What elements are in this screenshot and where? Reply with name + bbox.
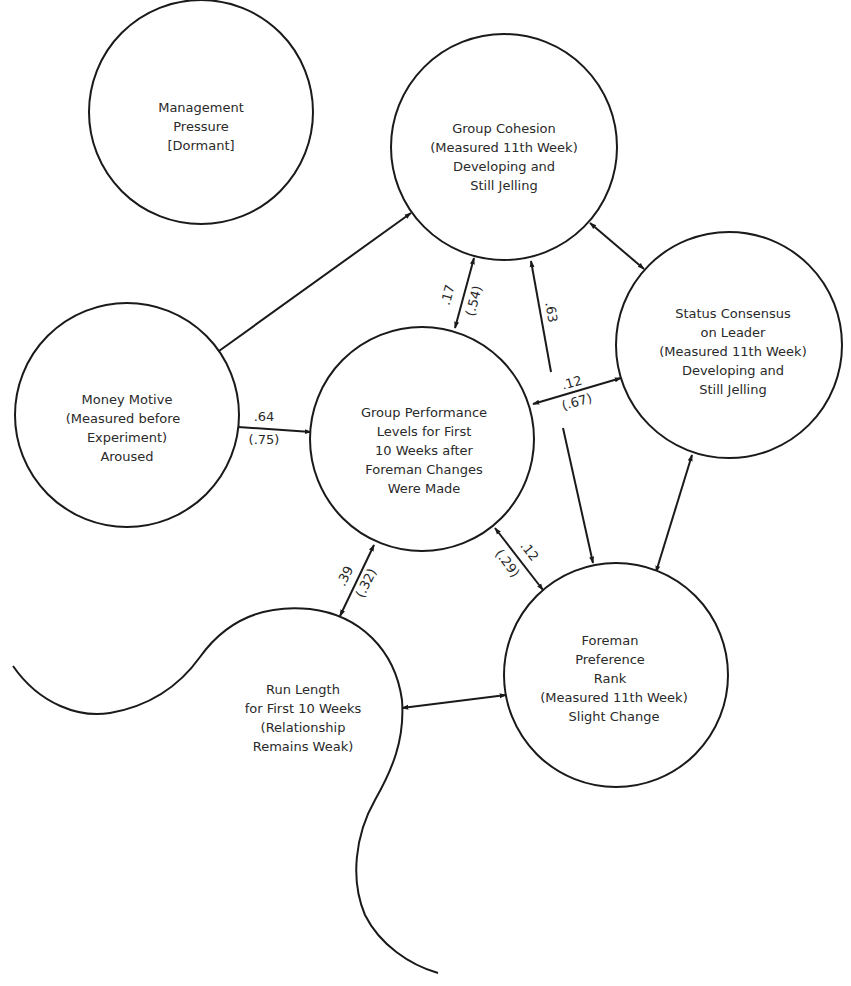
arrow-icon xyxy=(219,213,411,351)
node-label-line: Pressure xyxy=(173,119,229,134)
double-arrow-icon xyxy=(402,695,506,708)
circle-shape xyxy=(310,327,534,551)
node-foreman-preference: Foreman Preference Rank (Measured 11th W… xyxy=(504,563,728,787)
node-label-line: Developing and xyxy=(682,363,784,378)
path-diagram: .64 (.75) .17 (.54) .63 .12 (.67) .12 (.… xyxy=(0,0,851,986)
node-label-line: Developing and xyxy=(453,159,555,174)
double-arrow-icon xyxy=(656,455,692,572)
node-label-line: Aroused xyxy=(100,449,153,464)
node-label-line: Status Consensus xyxy=(675,306,791,321)
node-label-line: Experiment) xyxy=(87,430,167,445)
node-management-pressure: Management Pressure [Dormant] xyxy=(89,0,313,224)
node-label-line: Were Made xyxy=(388,481,461,496)
node-label-line: (Measured 11th Week) xyxy=(659,344,806,359)
coefficient-paren-label: (.75) xyxy=(249,432,280,447)
node-money-motive: Money Motive (Measured before Experiment… xyxy=(15,303,239,527)
node-label-line: Management xyxy=(158,100,244,115)
node-run-length: Run Length for First 10 Weeks (Relations… xyxy=(13,608,438,973)
double-arrow-icon xyxy=(590,223,644,269)
coefficient-label: .63 xyxy=(542,301,560,324)
node-label-line: Run Length xyxy=(266,682,340,697)
coefficient-label: .17 xyxy=(438,283,458,307)
edge-foreman-to-cohesion: .63 xyxy=(531,261,593,563)
edge-performance-foreman: .12 (.29) xyxy=(492,528,543,590)
node-label-line: Slight Change xyxy=(569,709,660,724)
node-label-line: Group Performance xyxy=(361,405,487,420)
edge-runlength-foreman xyxy=(402,695,506,708)
node-label-line: Still Jelling xyxy=(699,382,766,397)
node-label-line: (Measured 11th Week) xyxy=(430,140,577,155)
edge-status-foreman xyxy=(656,455,692,572)
edge-performance-runlength: .39 (.32) xyxy=(334,545,380,616)
node-label-line: Foreman Changes xyxy=(365,462,483,477)
node-label-line: Rank xyxy=(594,671,627,686)
node-label-line: [Dormant] xyxy=(167,138,234,153)
edge-money-to-performance: .64 (.75) xyxy=(238,409,311,447)
node-label-line: Group Cohesion xyxy=(452,121,556,136)
node-label-line: (Measured 11th Week) xyxy=(540,690,687,705)
node-group-cohesion: Group Cohesion (Measured 11th Week) Deve… xyxy=(391,34,617,260)
coefficient-label: .39 xyxy=(334,563,357,588)
node-label-line: (Relationship xyxy=(261,720,346,735)
node-label-line: Foreman xyxy=(582,633,639,648)
coefficient-label: .64 xyxy=(254,409,275,424)
wavy-boundary-shape xyxy=(13,608,438,973)
node-group-performance: Group Performance Levels for First 10 We… xyxy=(310,327,534,551)
edge-money-to-cohesion xyxy=(219,213,411,351)
coefficient-paren-label: (.29) xyxy=(492,546,523,580)
edge-performance-cohesion: .17 (.54) xyxy=(438,258,485,328)
node-label-line: Still Jelling xyxy=(470,178,537,193)
node-label-line: (Measured before xyxy=(66,411,181,426)
node-label-line: Preference xyxy=(575,652,645,667)
node-label-line: on Leader xyxy=(701,325,767,340)
node-label-line: Remains Weak) xyxy=(253,739,354,754)
node-label-line: Money Motive xyxy=(82,392,173,407)
edge-performance-status: .12 (.67) xyxy=(533,373,621,414)
node-label-line: for First 10 Weeks xyxy=(245,701,362,716)
node-label-line: Levels for First xyxy=(377,424,472,439)
edge-cohesion-status xyxy=(590,223,644,269)
arrow-icon xyxy=(563,428,593,563)
node-status-consensus: Status Consensus on Leader (Measured 11t… xyxy=(616,232,842,458)
node-label-line: 10 Weeks after xyxy=(375,443,474,458)
